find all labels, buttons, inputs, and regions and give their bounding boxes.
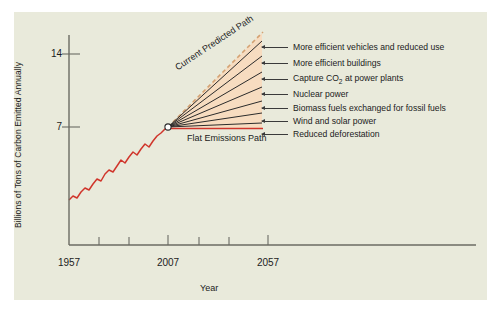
legend-label: More efficient vehicles and reduced use [293, 42, 444, 52]
legend-item-nuclear-power: Nuclear power [262, 87, 348, 101]
legend-leader-line-icon [262, 134, 288, 135]
legend-leader-line-icon [262, 63, 288, 64]
y-tick-label-14: 14 [36, 48, 62, 59]
flat-emissions-path-label: Flat Emissions Path [187, 133, 267, 143]
legend-item-capture-co2: Capture CO2 at power plants [262, 72, 403, 86]
legend-item-biomass-fuels: Biomass fuels exchanged for fossil fuels [262, 101, 446, 115]
legend-label: Capture CO2 at power plants [293, 73, 403, 85]
legend-leader-line-icon [262, 121, 288, 122]
legend-label: Wind and solar power [293, 116, 376, 126]
y-tick-label-7: 7 [36, 121, 62, 132]
apex-marker [165, 124, 171, 130]
legend-item-wind-solar: Wind and solar power [262, 114, 376, 128]
stabilization-wedges-chart: Billions of Tons of Carbon Emitted Annua… [0, 0, 499, 312]
historical-emissions-line [69, 127, 168, 200]
legend-leader-line-icon [262, 108, 288, 109]
x-axis-title: Year [200, 283, 218, 293]
legend-label: Reduced deforestation [293, 129, 379, 139]
legend-item-efficient-buildings: More efficient buildings [262, 56, 381, 70]
x-tick-label-1957: 1957 [45, 257, 93, 268]
y-axis-title: Billions of Tons of Carbon Emitted Annua… [13, 45, 23, 245]
legend-label-part-1: Capture CO [293, 73, 339, 83]
legend-leader-line-icon [262, 79, 288, 80]
legend-leader-line-icon [262, 47, 288, 48]
legend-leader-line-icon [262, 94, 288, 95]
legend-item-reduced-deforestation: Reduced deforestation [262, 127, 379, 141]
x-tick-label-2007: 2007 [144, 257, 192, 268]
legend-label: More efficient buildings [293, 58, 381, 68]
legend-label: Nuclear power [293, 89, 348, 99]
legend-label-part-2: at power plants [343, 73, 404, 83]
legend-item-efficient-vehicles: More efficient vehicles and reduced use [262, 40, 444, 54]
x-tick-label-2057: 2057 [244, 257, 292, 268]
legend-label: Biomass fuels exchanged for fossil fuels [293, 103, 446, 113]
